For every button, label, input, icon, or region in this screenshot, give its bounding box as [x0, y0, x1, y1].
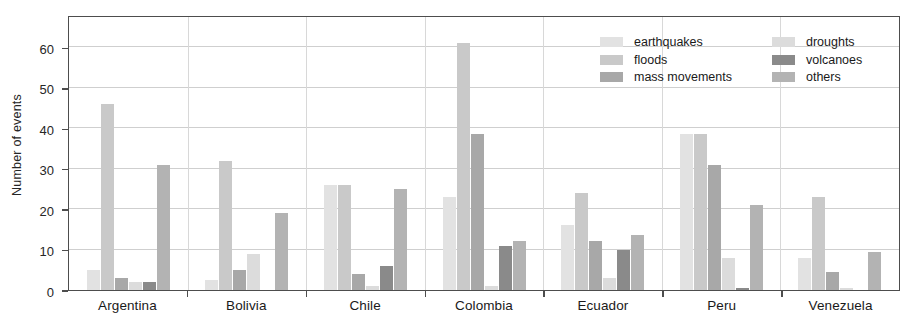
x-axis-label-peru: Peru — [662, 298, 781, 322]
bar-bolivia-earthquakes — [205, 280, 218, 290]
bar-chile-others — [394, 189, 407, 290]
bar-chile-floods — [338, 185, 351, 290]
legend-swatch-icon — [772, 37, 795, 47]
y-tick-label: 40 — [40, 123, 62, 136]
bar-colombia-volcanoes — [499, 246, 512, 290]
bar-chart: Number of events 0102030405060 Argentina… — [0, 0, 914, 330]
legend-item-mass-movements[interactable]: mass movements — [600, 71, 732, 84]
x-axis-label-venezuela: Venezuela — [781, 298, 900, 322]
bar-argentina-others — [157, 165, 170, 290]
bar-group-bolivia — [188, 17, 307, 290]
legend-swatch-icon — [600, 37, 623, 47]
bar-ecuador-others — [631, 235, 644, 290]
bar-bolivia-mass-movements — [233, 270, 246, 290]
bar-ecuador-earthquakes — [561, 225, 574, 290]
legend-swatch-icon — [772, 55, 795, 65]
y-tick-label: 20 — [40, 204, 62, 217]
bar-colombia-mass-movements — [471, 134, 484, 290]
legend-label: droughts — [806, 36, 855, 49]
bar-venezuela-mass-movements — [826, 272, 839, 290]
bar-ecuador-mass-movements — [589, 241, 602, 290]
bar-chile-earthquakes — [324, 185, 337, 290]
x-tick-mark — [781, 291, 782, 297]
x-axis-labels: ArgentinaBoliviaChileColombiaEcuadorPeru… — [68, 298, 900, 322]
legend-label: volcanoes — [806, 54, 862, 67]
legend-item-droughts[interactable]: droughts — [772, 36, 862, 49]
y-tick-label: 10 — [40, 245, 62, 258]
bar-chile-volcanoes — [380, 266, 393, 290]
bar-venezuela-others — [868, 252, 881, 290]
bar-colombia-floods — [457, 43, 470, 290]
y-tick-label: 30 — [40, 164, 62, 177]
legend-item-earthquakes[interactable]: earthquakes — [600, 36, 732, 49]
x-axis-label-colombia: Colombia — [425, 298, 544, 322]
legend-item-others[interactable]: others — [772, 71, 862, 84]
bar-ecuador-floods — [575, 193, 588, 290]
bar-bolivia-others — [275, 213, 288, 290]
bar-venezuela-droughts — [840, 288, 853, 290]
y-tick-label: 60 — [40, 42, 62, 55]
bar-peru-droughts — [722, 258, 735, 290]
x-tick-mark — [543, 291, 544, 297]
y-tick-label: 0 — [47, 285, 62, 298]
legend-item-volcanoes[interactable]: volcanoes — [772, 54, 862, 67]
x-tick-mark — [425, 291, 426, 297]
bar-bolivia-droughts — [247, 254, 260, 290]
bar-argentina-mass-movements — [115, 278, 128, 290]
bar-peru-mass-movements — [708, 165, 721, 290]
x-axis-label-bolivia: Bolivia — [187, 298, 306, 322]
bar-argentina-droughts — [129, 282, 142, 290]
legend-swatch-icon — [600, 55, 623, 65]
x-axis-label-chile: Chile — [306, 298, 425, 322]
bar-argentina-floods — [101, 104, 114, 290]
bar-chile-mass-movements — [352, 274, 365, 290]
legend-label: mass movements — [634, 71, 732, 84]
legend-label: earthquakes — [634, 36, 703, 49]
bar-group-colombia — [425, 17, 544, 290]
bar-venezuela-earthquakes — [798, 258, 811, 290]
bar-peru-volcanoes — [736, 288, 749, 290]
bar-ecuador-volcanoes — [617, 250, 630, 290]
bar-bolivia-floods — [219, 161, 232, 290]
bar-group-argentina — [69, 17, 188, 290]
legend-label: others — [806, 71, 841, 84]
bar-chile-droughts — [366, 286, 379, 290]
bar-venezuela-floods — [812, 197, 825, 290]
x-axis-label-argentina: Argentina — [68, 298, 187, 322]
bar-argentina-earthquakes — [87, 270, 100, 290]
legend-label: floods — [634, 54, 667, 67]
bar-group-chile — [306, 17, 425, 290]
chart-legend: earthquakesdroughtsfloodsvolcanoesmass m… — [600, 36, 862, 84]
x-tick-mark — [187, 291, 188, 297]
x-axis-ticks — [68, 291, 900, 298]
legend-item-floods[interactable]: floods — [600, 54, 732, 67]
bar-peru-others — [750, 205, 763, 290]
x-tick-mark — [306, 291, 307, 297]
bar-ecuador-droughts — [603, 278, 616, 290]
bar-peru-earthquakes — [680, 134, 693, 290]
bar-peru-floods — [694, 134, 707, 290]
legend-swatch-icon — [600, 72, 623, 82]
bar-argentina-volcanoes — [143, 282, 156, 290]
legend-swatch-icon — [772, 72, 795, 82]
x-axis-label-ecuador: Ecuador — [543, 298, 662, 322]
y-tick-label: 50 — [40, 83, 62, 96]
bar-colombia-earthquakes — [443, 197, 456, 290]
bar-colombia-droughts — [485, 286, 498, 290]
y-axis-ticks: 0102030405060 — [0, 16, 68, 291]
x-tick-mark — [662, 291, 663, 297]
bar-colombia-others — [513, 241, 526, 290]
